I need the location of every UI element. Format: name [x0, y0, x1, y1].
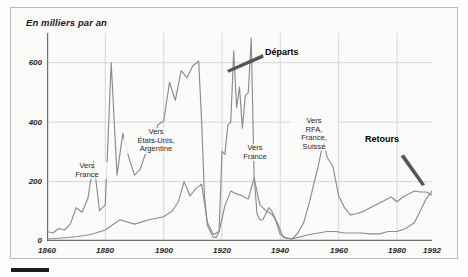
x-tick-label-1900: 1900: [144, 246, 184, 255]
x-tick-label-1920: 1920: [202, 246, 242, 255]
y-tick-label-200: 200: [8, 177, 42, 186]
caption-rule: [11, 268, 49, 272]
annotation-vers-france-2: Vers France: [233, 144, 277, 161]
annotation-vers-rfa-france-suisse: Vers RFA, France, Suisse: [290, 117, 338, 151]
y-tick-label-0: 0: [8, 236, 42, 245]
chart-title: En milliers par an: [26, 17, 107, 28]
plot-area: Vers France Vers États-Unis, Argentine V…: [47, 33, 432, 241]
figure-root: En milliers par an: [0, 0, 468, 277]
x-tick-label-1992: 1992: [412, 246, 452, 255]
x-tick-label-1980: 1980: [377, 246, 417, 255]
series-label-retours: Retours: [365, 134, 399, 144]
y-tick-label-600: 600: [8, 58, 42, 67]
y-tick-label-400: 400: [8, 118, 42, 127]
series-label-departs: Départs: [265, 47, 299, 57]
annotation-vers-france-1: Vers France: [65, 162, 109, 179]
x-tick-label-1960: 1960: [319, 246, 359, 255]
x-tick-label-1940: 1940: [260, 246, 300, 255]
x-tick-label-1880: 1880: [85, 246, 125, 255]
x-tick-label-1860: 1860: [27, 246, 67, 255]
annotation-vers-etats-unis-argentine: Vers États-Unis, Argentine: [124, 128, 188, 154]
